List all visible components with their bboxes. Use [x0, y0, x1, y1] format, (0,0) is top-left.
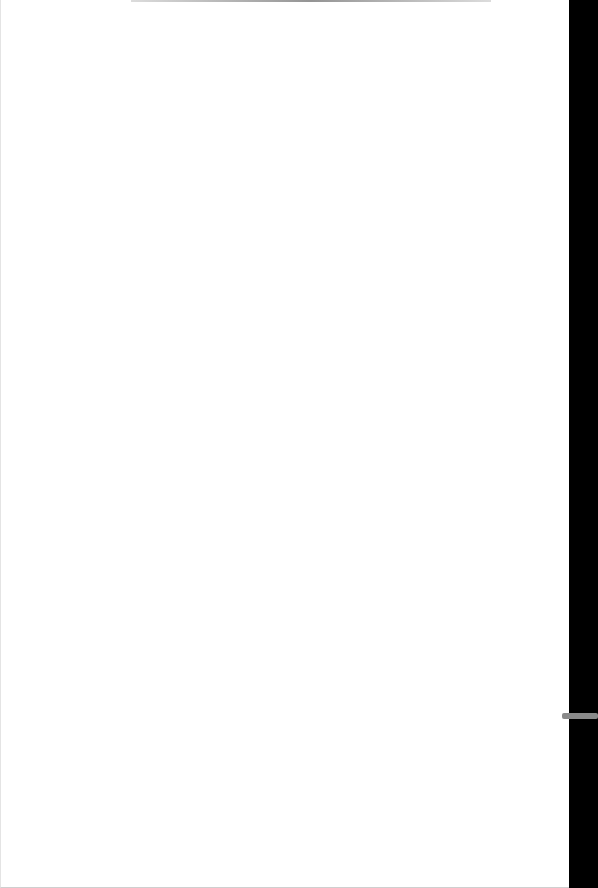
side-tab-marker — [562, 713, 598, 719]
page-top-shadow — [131, 0, 491, 2]
blank-page — [0, 0, 569, 888]
dark-background-edge — [569, 0, 598, 888]
